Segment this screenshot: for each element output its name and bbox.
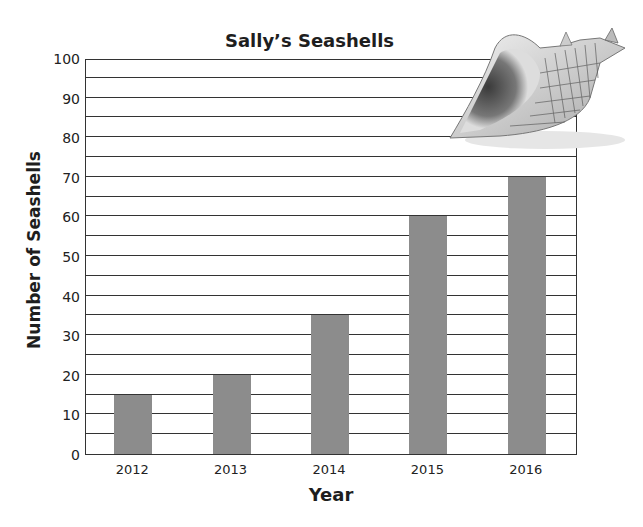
bar-2012: [114, 395, 152, 454]
x-tick-label: 2014: [299, 462, 359, 477]
y-tick-label: 70: [0, 170, 80, 186]
y-tick-label: 60: [0, 209, 80, 225]
gridline: [86, 196, 576, 197]
gridline: [86, 235, 576, 236]
gridline: [86, 255, 576, 256]
x-tick-label: 2012: [102, 462, 162, 477]
gridline: [86, 215, 576, 216]
y-tick-label: 40: [0, 289, 80, 305]
bar-2016: [508, 177, 546, 454]
y-tick-label: 90: [0, 91, 80, 107]
y-tick-label: 80: [0, 130, 80, 146]
y-tick-label: 30: [0, 328, 80, 344]
y-tick-label: 10: [0, 407, 80, 423]
x-axis-label: Year: [85, 484, 577, 505]
gridline: [86, 295, 576, 296]
x-tick-label: 2016: [496, 462, 556, 477]
gridline: [86, 156, 576, 157]
gridline: [86, 275, 576, 276]
y-tick-label: 100: [0, 51, 80, 67]
gridline: [86, 176, 576, 177]
seashell-icon: [440, 18, 640, 153]
bar-2014: [311, 315, 349, 454]
bar-2013: [213, 375, 251, 454]
y-tick-label: 20: [0, 368, 80, 384]
y-tick-label: 50: [0, 249, 80, 265]
y-tick-label: 0: [0, 447, 80, 463]
x-tick-label: 2013: [201, 462, 261, 477]
x-tick-label: 2015: [397, 462, 457, 477]
chart-title-text: Sally’s Seashells: [225, 30, 394, 51]
bar-2015: [409, 216, 447, 454]
